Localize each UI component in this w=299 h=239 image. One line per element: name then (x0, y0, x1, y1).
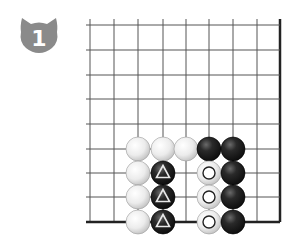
black-stone[interactable] (221, 137, 245, 161)
white-stone[interactable] (151, 137, 175, 161)
white-stone[interactable] (126, 161, 150, 185)
black-stone[interactable] (197, 137, 221, 161)
black-stone[interactable] (221, 161, 245, 185)
white-stone[interactable] (197, 185, 221, 209)
black-stone[interactable] (151, 185, 175, 209)
white-stone[interactable] (197, 161, 221, 185)
white-stone[interactable] (126, 210, 150, 234)
black-stone[interactable] (221, 210, 245, 234)
circle-mark-icon (203, 216, 215, 228)
circle-mark-icon (203, 191, 215, 203)
circle-mark-icon (203, 167, 215, 179)
black-stone[interactable] (151, 210, 175, 234)
board-grid (86, 19, 280, 222)
go-board (0, 0, 299, 239)
black-stone[interactable] (221, 185, 245, 209)
black-stone[interactable] (151, 161, 175, 185)
white-stone[interactable] (197, 210, 221, 234)
white-stone[interactable] (126, 137, 150, 161)
white-stone[interactable] (174, 137, 198, 161)
white-stone[interactable] (126, 185, 150, 209)
